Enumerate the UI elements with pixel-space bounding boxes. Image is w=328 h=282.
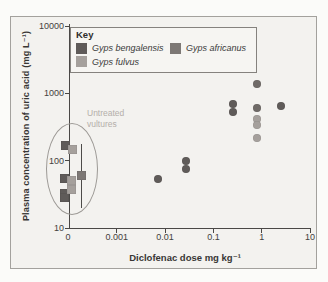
data-point [67,176,76,185]
data-point [182,157,190,165]
legend-entry: Gyps bengalensis [76,43,170,54]
y-tick-label: 10000 [39,21,64,31]
legend-title: Key [76,29,256,40]
data-point [277,102,285,110]
x-tick-label: 0.01 [156,232,174,242]
legend-swatch [76,43,87,54]
data-point [60,193,69,202]
untreated-annotation-line1: Untreated [87,108,124,119]
x-tick-label: 10 [305,232,315,242]
y-tick-mark [65,93,69,94]
x-tick-label: 0 [65,232,70,242]
data-point [229,100,237,108]
chart-figure: 1010010001000000.0010.010.1110 Plasma co… [0,0,328,282]
legend-row: Gyps fulvus [76,56,256,67]
y-tick-mark [65,228,69,229]
y-tick-mark [65,26,69,27]
legend-label: Gyps fulvus [92,57,139,67]
y-tick-label: 1000 [44,88,64,98]
legend-label: Gyps bengalensis [92,43,164,53]
legend-rows: Gyps bengalensisGyps africanusGyps fulvu… [76,43,256,68]
data-point [77,171,86,180]
legend-label: Gyps africanus [186,43,246,53]
x-axis-title: Diclofenac dose mg kg⁻¹ [129,252,241,263]
untreated-cluster-ellipse [46,123,98,215]
legend-swatch [76,56,87,67]
data-point [253,80,261,88]
legend-swatch [170,43,181,54]
untreated-annotation-line2: vultures [87,119,124,130]
y-tick-label: 10 [54,223,64,233]
data-point [68,145,77,154]
x-axis-line [69,228,311,229]
data-point [154,175,162,183]
data-point [253,121,261,129]
legend-row: Gyps bengalensisGyps africanus [76,43,256,54]
untreated-annotation: Untreated vultures [87,108,124,130]
legend-entry: Gyps fulvus [76,56,139,67]
x-tick-label: 0.001 [106,232,129,242]
x-tick-label: 0.1 [207,232,220,242]
data-point [182,165,190,173]
legend-entry: Gyps africanus [170,43,246,54]
data-point [229,108,237,116]
y-axis-title: Plasma concentration of uric acid (mg L⁻… [21,31,31,221]
x-tick-label: 1 [259,232,264,242]
data-point [67,185,76,194]
legend: Key Gyps bengalensisGyps africanusGyps f… [70,27,257,73]
